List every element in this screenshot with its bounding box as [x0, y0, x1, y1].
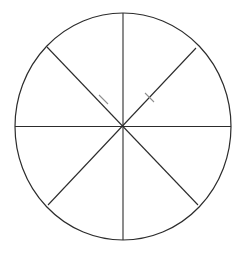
circle-sector-diagram — [0, 0, 246, 254]
diagram-canvas — [0, 0, 246, 254]
